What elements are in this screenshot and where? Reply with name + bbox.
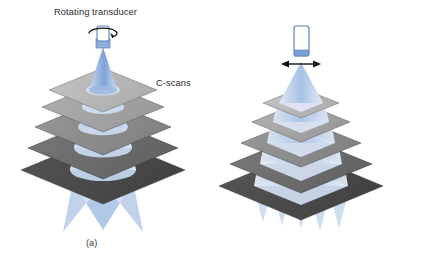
beam-wedge-upper: [279, 62, 323, 103]
panel-wobbling-transducer: Wobbling transducer C-scans (b): [211, 0, 423, 268]
ultrasound-cscan-figure: Rotating transducer C-scans (a): [0, 0, 423, 268]
panel-a-graphic: [0, 0, 212, 268]
panel-b-graphic: [211, 0, 423, 268]
transducer-wobbling: [294, 26, 309, 56]
beam-cone-upper: [89, 47, 117, 90]
transducer-rotating: [96, 26, 110, 48]
cone-base-ellipse: [89, 85, 117, 94]
panel-rotating-transducer: Rotating transducer C-scans (a): [0, 0, 212, 268]
